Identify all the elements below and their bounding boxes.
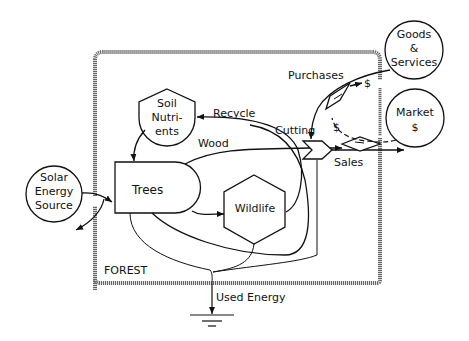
trees-producer: Trees (115, 162, 201, 213)
dollar-label-2: $ (333, 121, 340, 134)
wood-label: Wood (198, 137, 229, 150)
goods-label-line-2: & (410, 42, 419, 55)
forest-energy-diagram: FOREST Solar Energy Source Soil Nutri- e… (0, 0, 469, 341)
trees-label: Trees (131, 183, 163, 197)
solar-energy-source: Solar Energy Source (26, 166, 82, 222)
goods-label-line-3: Services (391, 56, 438, 69)
used-energy-label: Used Energy (216, 291, 286, 304)
purchases-label: Purchases (288, 69, 344, 82)
cutting-interaction (303, 141, 332, 159)
market-source: Market $ (386, 89, 444, 147)
soil-label-line-1: Soil (157, 97, 177, 110)
sales-transaction (342, 137, 380, 151)
sales-label: Sales (334, 156, 364, 169)
forest-label: FOREST (104, 264, 148, 277)
goods-services-source: Goods & Services (385, 21, 443, 79)
wildlife-consumer: Wildlife (224, 175, 285, 244)
dollar-flow-to-goods (350, 83, 362, 86)
solar-label-line-3: Source (35, 199, 73, 212)
wildlife-heat-sink-flow (213, 244, 254, 272)
solar-label-line-2: Energy (35, 185, 74, 198)
wildlife-label: Wildlife (235, 202, 276, 215)
soil-to-trees-flow (134, 130, 145, 161)
dollar-label-1: $ (364, 77, 371, 90)
trees-to-wildlife-flow (192, 211, 224, 214)
soil-label-line-2: Nutri- (151, 111, 182, 124)
soil-nutrients-storage: Soil Nutri- ents (139, 89, 195, 146)
recycle-label: Recycle (213, 107, 256, 120)
solar-label-line-1: Solar (40, 171, 69, 184)
market-label-line-2: $ (412, 121, 419, 134)
heat-sink-icon (190, 315, 234, 326)
purchases-transaction (326, 83, 350, 109)
soil-label-line-3: ents (155, 125, 179, 138)
market-label-line-1: Market (396, 106, 434, 119)
goods-label-line-1: Goods (397, 28, 432, 41)
cutting-label: Cutting (275, 124, 315, 137)
boundary-gap-solar (88, 196, 102, 206)
